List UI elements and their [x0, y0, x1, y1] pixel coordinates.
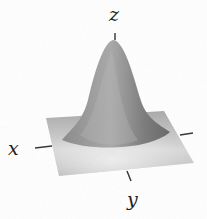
- z-axis-label: z: [109, 5, 119, 24]
- x-axis-label: x: [8, 139, 19, 158]
- y-axis-label: y: [127, 190, 138, 209]
- gaussian-surface-figure: [0, 0, 207, 219]
